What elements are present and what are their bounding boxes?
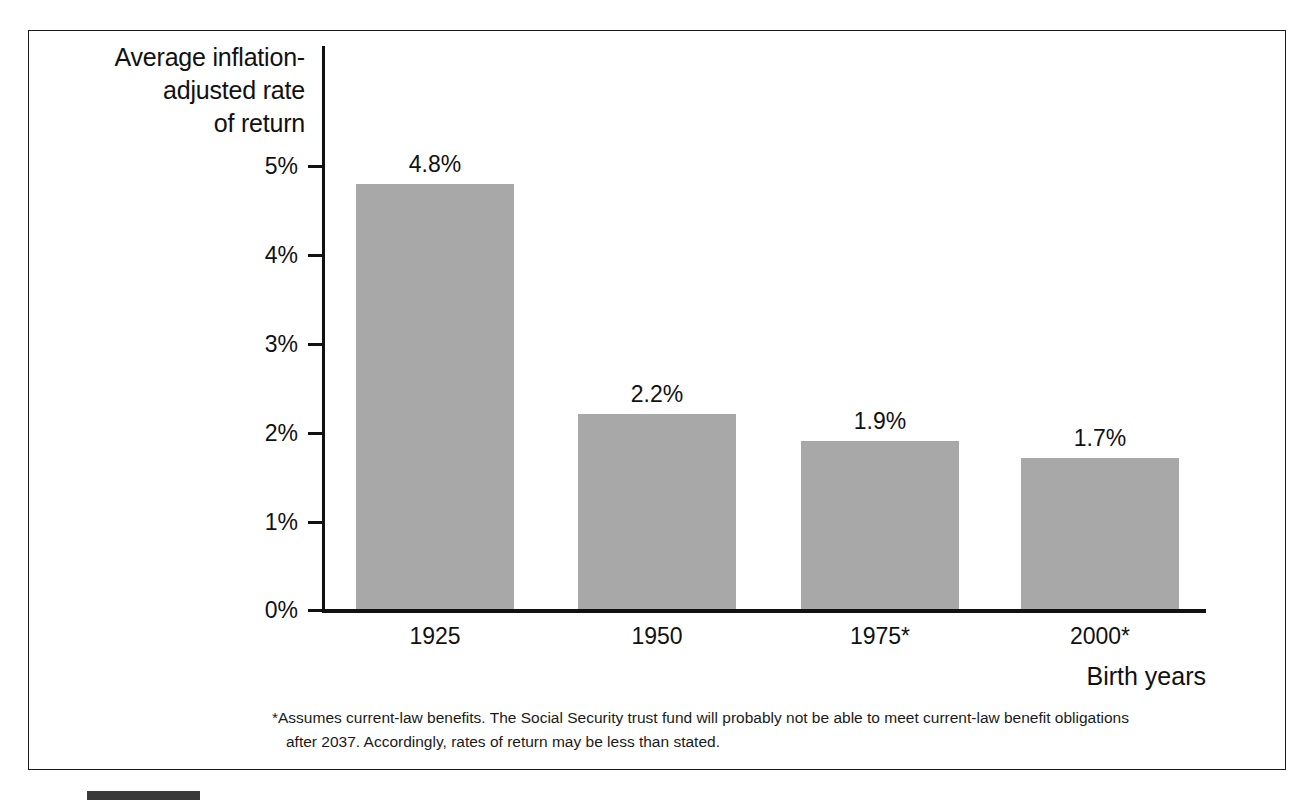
bar-1950 <box>578 414 736 609</box>
x-category-label-2000: 2000* <box>1021 623 1179 649</box>
x-axis-title: Birth years <box>906 662 1206 690</box>
chart-plot-area: Average inflation- adjusted rate of retu… <box>29 31 1287 771</box>
y-tick-mark-0 <box>308 609 323 612</box>
x-axis-line <box>322 609 1206 613</box>
x-category-label-1925: 1925 <box>356 623 514 649</box>
bar-value-1975: 1.9% <box>801 410 959 433</box>
bar-1925 <box>356 184 514 609</box>
bar-value-1950: 2.2% <box>578 383 736 406</box>
bars-layer <box>29 31 1287 609</box>
chart-footnote: *Assumes current-law benefits. The Socia… <box>272 706 1192 754</box>
x-category-label-1975: 1975* <box>801 623 959 649</box>
bar-2000 <box>1021 458 1179 609</box>
bar-1975 <box>801 441 959 609</box>
x-category-label-1950: 1950 <box>578 623 736 649</box>
bar-value-2000: 1.7% <box>1021 427 1179 450</box>
bar-value-1925: 4.8% <box>356 153 514 176</box>
footnote-line-2: after 2037. Accordingly, rates of return… <box>272 730 1192 754</box>
bottom-page-marker <box>87 791 200 800</box>
figure-frame: Average inflation- adjusted rate of retu… <box>28 30 1286 770</box>
footnote-line-1: *Assumes current-law benefits. The Socia… <box>272 709 1129 726</box>
